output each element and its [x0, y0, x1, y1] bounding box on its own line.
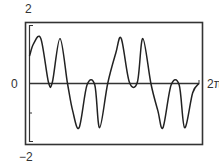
- origin-label: 0: [11, 78, 18, 90]
- plot-area: [0, 0, 219, 167]
- y-max-label: 2: [25, 3, 32, 15]
- y-min-label: −2: [19, 151, 33, 163]
- x-max-label: 2π: [207, 78, 219, 90]
- function-curve: [30, 36, 199, 128]
